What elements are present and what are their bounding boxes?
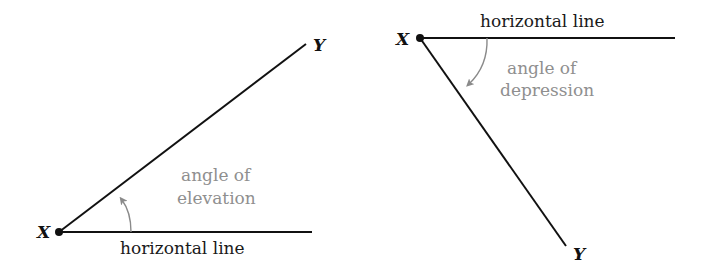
horizontal-line-label: horizontal line <box>120 238 245 258</box>
depression-arrow-icon <box>469 38 487 84</box>
observer-point <box>416 34 424 42</box>
observer-point <box>55 228 63 236</box>
label-x: X <box>36 222 51 242</box>
elevation-arrow-icon <box>122 200 131 232</box>
diagram-canvas: X Y angle of elevation horizontal line X… <box>0 0 706 267</box>
angle-label-line2: depression <box>500 80 594 100</box>
horizontal-line-label: horizontal line <box>480 11 605 31</box>
label-y: Y <box>573 244 587 264</box>
elevation-diagram: X Y angle of elevation horizontal line <box>36 35 327 258</box>
angle-label-line2: elevation <box>177 188 256 208</box>
label-x: X <box>395 29 410 49</box>
angle-label-line1: angle of <box>507 58 578 78</box>
label-y: Y <box>313 35 327 55</box>
angle-label-line1: angle of <box>181 165 252 185</box>
depression-diagram: X Y angle of depression horizontal line <box>395 11 675 264</box>
